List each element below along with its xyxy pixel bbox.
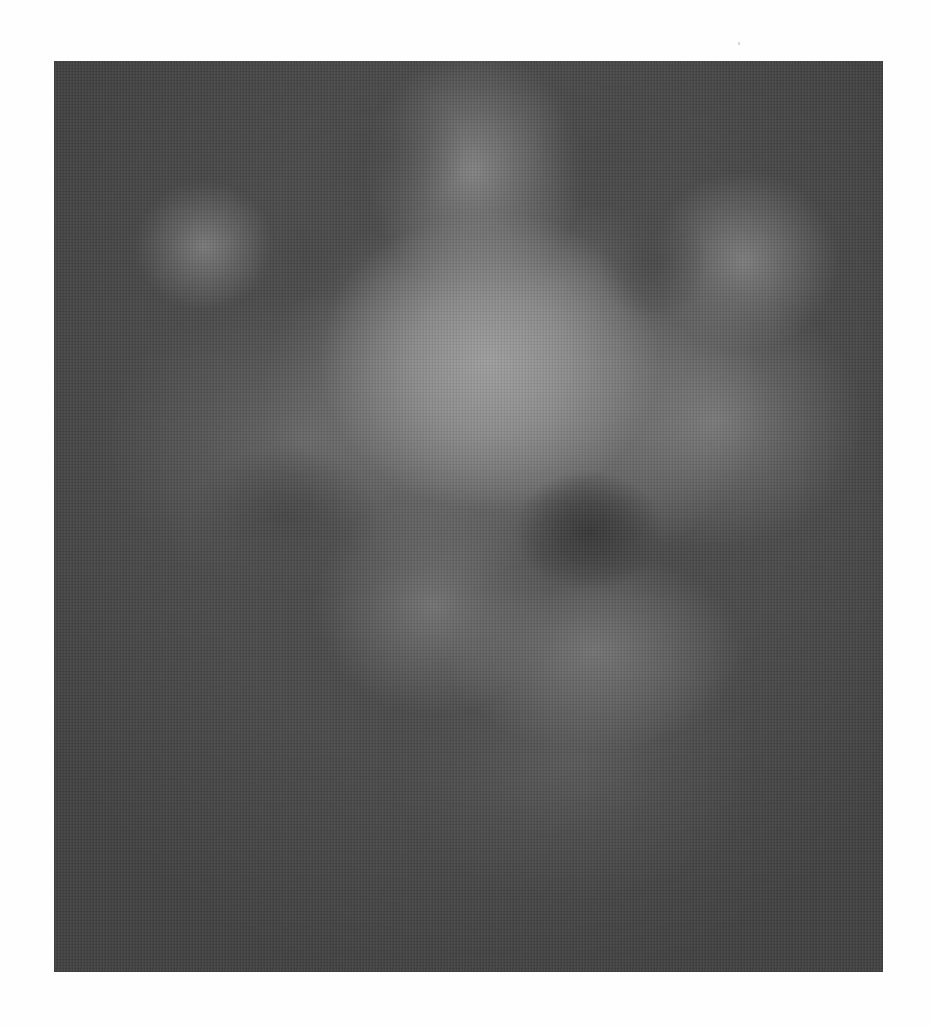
page	[0, 0, 930, 1026]
noise-texture	[54, 61, 883, 972]
grayscale-image	[54, 61, 883, 972]
speck-mark	[738, 42, 740, 45]
